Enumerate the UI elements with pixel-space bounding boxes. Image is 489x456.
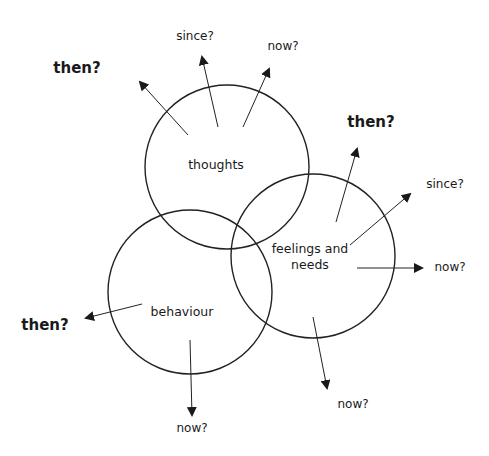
circle-label-thoughts: thoughts <box>188 157 244 173</box>
arrow-feelings-now <box>313 317 327 388</box>
arrow-label-since: since? <box>176 29 214 44</box>
arrow-label-then: then? <box>21 316 68 335</box>
arrow-behaviour-now <box>190 340 192 415</box>
arrow-label-now: now? <box>434 260 465 275</box>
arrow-feelings-since <box>350 194 410 245</box>
arrow-label-since: since? <box>426 177 464 192</box>
circle-label-line-2: needs <box>272 257 349 273</box>
circle-label-behaviour: behaviour <box>151 304 214 320</box>
circle-label-feelings: feelings andneeds <box>272 241 349 272</box>
arrow-label-now: now? <box>267 39 298 54</box>
arrow-behaviour-then <box>86 304 142 318</box>
arrow-label-then: then? <box>53 59 100 78</box>
arrow-thoughts-since <box>202 57 218 127</box>
arrow-label-now: now? <box>337 397 368 412</box>
arrow-label-now: now? <box>176 421 207 436</box>
circle-label-line-1: feelings and <box>272 241 349 257</box>
arrow-thoughts-now <box>243 69 269 127</box>
arrow-label-then: then? <box>347 113 394 132</box>
arrow-thoughts-then <box>140 82 188 135</box>
